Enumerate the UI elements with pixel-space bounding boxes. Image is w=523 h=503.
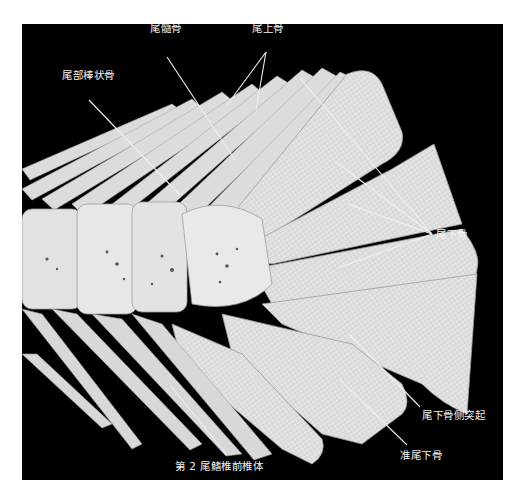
label-preural-centrum-2: 第 2 尾鳍椎前椎体 — [175, 460, 263, 472]
label-uroneural-rod: 尾部棒状骨 — [62, 69, 115, 81]
caudal-skeleton-photo: 尾髓骨 尾上骨 尾部棒状骨 尾下骨 尾下骨侧突起 准尾下骨 第 2 尾鳍椎前椎体 — [22, 24, 503, 480]
label-hypurapophysis: 尾下骨侧突起 — [422, 409, 485, 421]
label-epural: 尾上骨 — [252, 24, 284, 34]
label-hypural: 尾下骨 — [436, 228, 468, 240]
label-parhypural: 准尾下骨 — [400, 449, 442, 461]
vertebral-column — [22, 202, 272, 314]
label-urostyle: 尾髓骨 — [150, 24, 182, 34]
